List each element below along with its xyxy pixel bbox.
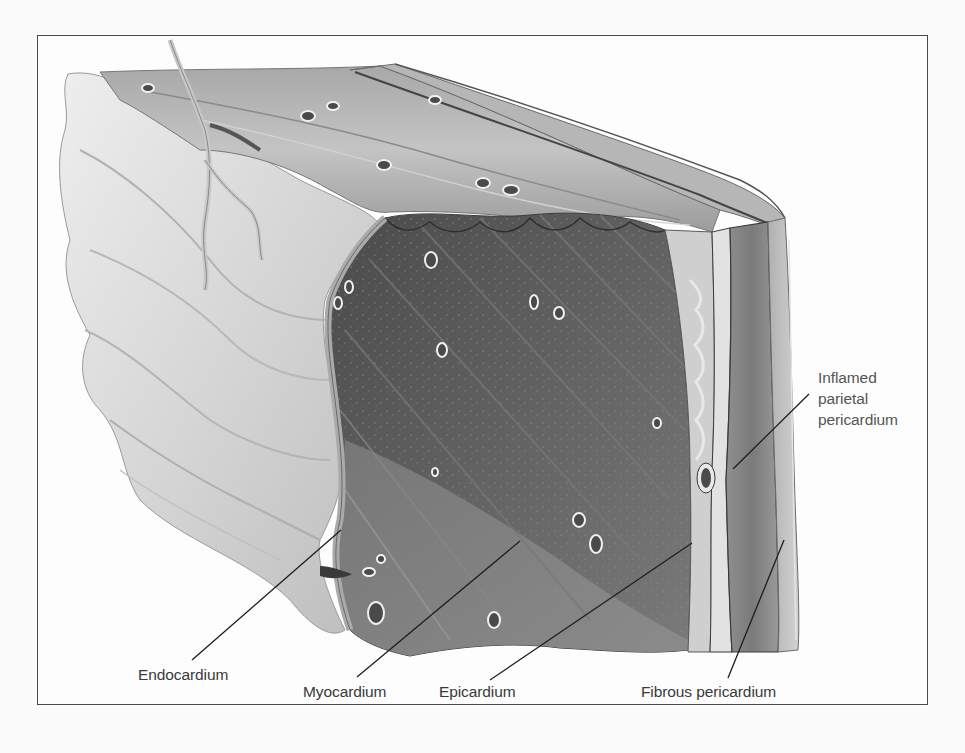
myocardium-layer [328,213,691,656]
label-myocardium: Myocardium [303,682,386,701]
label-fibrous-pericardium: Fibrous pericardium [641,682,776,701]
label-endocardium: Endocardium [138,665,228,684]
label-inflamed-parietal-pericardium: Inflamed parietal pericardium [818,367,898,430]
label-epicardium: Epicardium [439,682,516,701]
